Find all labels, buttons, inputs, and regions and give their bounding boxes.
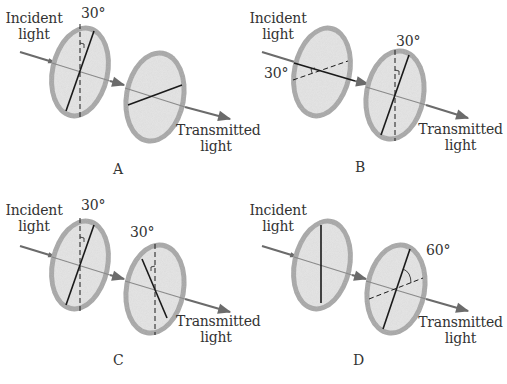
transmitted-label-line1: Transmitted	[176, 122, 256, 138]
incident-label-line2: light	[4, 26, 64, 42]
angle-label: 60°	[426, 242, 450, 258]
panel-d: Incident light 60° Transmitted light D	[250, 190, 504, 382]
transmitted-label: Transmitted light	[176, 122, 256, 154]
transmitted-label-line1: Transmitted	[176, 313, 256, 329]
incident-label: Incident light	[4, 202, 64, 234]
transmitted-label-line2: light	[176, 138, 256, 154]
transmitted-label-line1: Transmitted	[418, 314, 503, 330]
panel-b: Incident light 30° 30° Transmitted light…	[250, 0, 504, 192]
panel-a: Incident light 30° Transmitted light A	[0, 0, 254, 192]
panel-letter: A	[113, 161, 123, 177]
transmitted-label: Transmitted light	[418, 314, 503, 346]
transmitted-label-line2: light	[176, 329, 256, 345]
incident-label-line1: Incident	[248, 10, 308, 26]
angle-label: 30°	[81, 5, 105, 21]
incident-label-line2: light	[4, 218, 64, 234]
transmitted-label-line1: Transmitted	[418, 121, 503, 137]
transmitted-label: Transmitted light	[176, 313, 256, 345]
incident-label-line2: light	[248, 218, 308, 234]
incident-label-line2: light	[248, 26, 308, 42]
incident-label-line1: Incident	[4, 202, 64, 218]
incident-label: Incident light	[248, 10, 308, 42]
angle-label-first: 30°	[81, 197, 105, 213]
angle-label-second: 30°	[130, 224, 154, 240]
transmitted-label-line2: light	[418, 137, 503, 153]
panel-letter: B	[355, 159, 365, 175]
panel-letter: D	[353, 352, 364, 368]
polarizer-figure: Incident light 30° Transmitted light A I…	[0, 0, 507, 384]
incident-label: Incident light	[248, 202, 308, 234]
panel-letter: C	[113, 352, 124, 368]
transmitted-label: Transmitted light	[418, 121, 503, 153]
transmitted-label-line2: light	[418, 330, 503, 346]
incident-label-line1: Incident	[248, 202, 308, 218]
angle-label-top: 30°	[396, 33, 420, 49]
panel-c: Incident light 30° 30° Transmitted light…	[0, 190, 254, 382]
incident-label: Incident light	[4, 10, 64, 42]
angle-label-left: 30°	[264, 65, 288, 81]
incident-label-line1: Incident	[4, 10, 64, 26]
